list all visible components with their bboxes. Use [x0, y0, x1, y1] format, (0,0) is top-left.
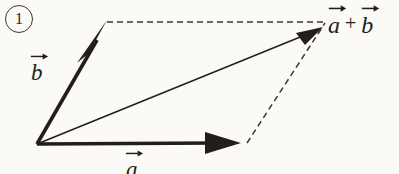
vector-b-letter: b — [31, 61, 43, 84]
vector-a-term: a — [126, 147, 138, 174]
resultant-first-letter: a — [328, 13, 340, 37]
dashed-line-right — [247, 23, 325, 143]
vector-b-arrowhead — [77, 20, 107, 63]
vector-a-arrowhead — [205, 132, 241, 154]
vector-b-term: b — [31, 50, 43, 84]
vector-a-label: a — [126, 147, 138, 174]
vector-sum-shaft — [37, 31, 315, 144]
vector-addition-figure: 1 b a a + — [0, 0, 399, 174]
vector-a-letter: a — [126, 158, 138, 174]
vector-sum-arrowhead — [296, 27, 323, 45]
resultant-operator: + — [340, 2, 361, 33]
resultant-label: a + b — [328, 2, 373, 37]
item-number-badge: 1 — [5, 5, 33, 33]
vector-b-label: b — [31, 50, 43, 84]
vector-a-shaft — [37, 143, 218, 144]
resultant-first-term: a — [328, 2, 340, 37]
item-number-text: 1 — [15, 11, 23, 27]
resultant-second-term: b — [361, 2, 373, 37]
resultant-second-letter: b — [361, 13, 373, 37]
